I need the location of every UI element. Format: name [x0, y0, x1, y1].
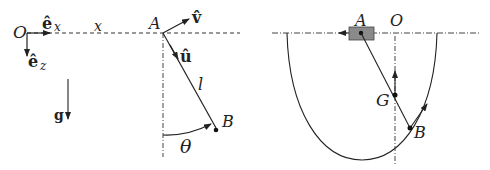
- ex-subscript: x: [54, 20, 61, 34]
- origin-label-right: O: [390, 11, 403, 30]
- point-a-label-right: A: [353, 11, 367, 30]
- diagram-canvas: O ê x ê z x A v̂ û l B θ g: [0, 0, 490, 170]
- u-hat-label: û: [180, 47, 192, 66]
- v-hat-arrow-icon: [163, 19, 189, 33]
- origin-label: O: [13, 22, 27, 42]
- left-diagram: O ê x ê z x A v̂ û l B θ g: [13, 8, 240, 157]
- x-axis-label: x: [94, 18, 102, 34]
- angle-theta-label: θ: [180, 135, 192, 157]
- point-g-dot: [393, 93, 398, 98]
- point-g-label: G: [376, 90, 390, 110]
- point-b-label: B: [221, 112, 234, 131]
- length-label: l: [198, 75, 203, 94]
- v-hat-label: v̂: [191, 8, 202, 27]
- u-hat-arrow-icon: [170, 45, 178, 59]
- point-b-dot-right: [408, 126, 413, 131]
- ex-label: ê: [42, 14, 52, 33]
- gravity-label: g: [54, 107, 64, 123]
- ez-subscript: z: [39, 59, 47, 73]
- angle-arc-arrow-icon: [163, 124, 211, 135]
- point-b-label-right: B: [413, 123, 426, 142]
- point-a-label: A: [147, 14, 161, 33]
- rod-line-right: [361, 33, 410, 128]
- point-b-dot: [214, 128, 219, 133]
- right-diagram: A O G B: [272, 11, 480, 164]
- ez-label: ê: [28, 52, 38, 71]
